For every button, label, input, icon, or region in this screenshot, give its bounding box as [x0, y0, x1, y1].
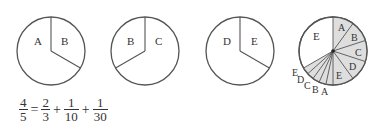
denominator: 30 [93, 110, 108, 123]
denominator: 10 [64, 110, 79, 123]
pie-4: E A B C D E E D C B A [292, 17, 367, 96]
pie-3-label-e: E [251, 35, 258, 47]
pie-2-label-c: C [155, 35, 162, 47]
fraction-term-1: 2 3 [41, 96, 50, 123]
pie-4-label-c: C [355, 47, 362, 58]
plus-sign: + [53, 102, 61, 118]
pie-4-label-big-e: E [313, 30, 320, 42]
pie-4-label-a: A [338, 22, 346, 33]
denominator: 5 [19, 110, 28, 123]
numerator: 1 [96, 96, 105, 109]
fraction-term-2: 1 10 [64, 96, 79, 123]
fraction-term-3: 1 30 [93, 96, 108, 123]
pie-3: D E [206, 17, 274, 85]
pie-4-outer-label-b: B [312, 84, 319, 95]
pie-4-label-e: E [336, 70, 342, 81]
pie-4-label-d: D [349, 61, 356, 72]
pie-1-label-a: A [34, 35, 42, 47]
pie-1-label-b: B [61, 35, 68, 47]
plus-sign: + [82, 102, 90, 118]
denominator: 3 [41, 110, 50, 123]
pie-4-label-b: B [351, 32, 358, 43]
equals-sign: = [31, 102, 39, 118]
pie-4-outer-label-c: C [304, 80, 311, 91]
pie-diagrams: A B B C D E [0, 0, 382, 96]
pie-2-label-b: B [127, 35, 134, 47]
pie-2: B C [111, 17, 179, 85]
numerator: 4 [19, 96, 28, 109]
numerator: 2 [41, 96, 50, 109]
pie-4-outer-label-a: A [321, 86, 329, 96]
pie-1: A B [17, 17, 85, 85]
fraction-equation: 4 5 = 2 3 + 1 10 + 1 30 [18, 96, 109, 123]
fraction-lhs: 4 5 [19, 96, 28, 123]
pie-3-label-d: D [223, 35, 231, 47]
numerator: 1 [67, 96, 76, 109]
